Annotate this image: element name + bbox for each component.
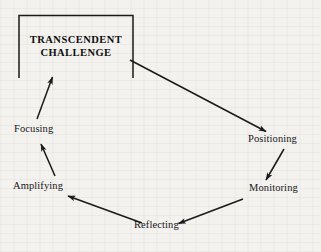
node-positioning: Positioning — [248, 133, 297, 144]
diagram-canvas: TRANSCENDENT CHALLENGE Focusing Amplifyi… — [0, 0, 321, 252]
edge-amplifying-to-focusing — [41, 144, 55, 176]
edge-challenge-to-positioning — [130, 60, 266, 132]
transcendent-challenge-line1: TRANSCENDENT — [30, 34, 122, 45]
edge-monitoring-to-reflecting — [179, 199, 244, 224]
edge-positioning-to-monitoring — [266, 149, 284, 180]
transcendent-challenge-label: TRANSCENDENT CHALLENGE — [19, 33, 133, 59]
transcendent-challenge-line2: CHALLENGE — [19, 46, 133, 59]
node-amplifying: Amplifying — [13, 180, 63, 191]
node-reflecting: Reflecting — [134, 219, 179, 230]
edge-focusing-to-challenge — [37, 77, 53, 119]
node-focusing: Focusing — [14, 123, 53, 134]
node-monitoring: Monitoring — [249, 182, 298, 193]
edge-reflecting-to-amplifying — [68, 196, 142, 223]
